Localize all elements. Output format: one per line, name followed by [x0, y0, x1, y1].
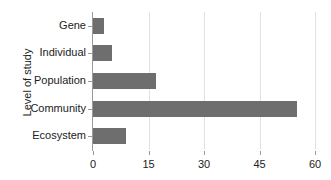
gridline — [315, 12, 316, 150]
bar — [93, 18, 104, 34]
x-axis-tick-label: 45 — [245, 158, 275, 170]
y-axis-tick-labels: GeneIndividualPopulationCommunityEcosyst… — [26, 12, 86, 150]
x-axis-tick-mark — [315, 151, 316, 155]
bar — [93, 101, 297, 117]
x-axis-tick-mark — [93, 151, 94, 155]
x-axis-tick-mark — [149, 151, 150, 155]
y-axis-tick-label: Gene — [26, 20, 86, 31]
bar — [93, 73, 156, 89]
y-axis-tick-label: Ecosystem — [26, 130, 86, 141]
x-axis-tick-label: 0 — [78, 158, 108, 170]
y-axis-tick-mark — [88, 136, 93, 137]
gridline — [260, 12, 261, 150]
y-axis-tick-label: Population — [26, 75, 86, 86]
bar — [93, 45, 112, 61]
y-axis-tick-mark — [88, 53, 93, 54]
y-axis-tick-mark — [88, 109, 93, 110]
plot-area — [93, 12, 315, 150]
x-axis-tick-label: 60 — [300, 158, 330, 170]
y-axis-tick-mark — [88, 26, 93, 27]
x-axis-tick-mark — [204, 151, 205, 155]
gridline — [204, 12, 205, 150]
x-axis-tick-label: 15 — [134, 158, 164, 170]
y-axis-tick-label: Individual — [26, 47, 86, 58]
x-axis-tick-label: 30 — [189, 158, 219, 170]
y-axis-tick-mark — [88, 81, 93, 82]
bar-chart: Level of study GeneIndividualPopulationC… — [0, 0, 331, 180]
x-axis-tick-mark — [260, 151, 261, 155]
bar — [93, 128, 126, 144]
y-axis-tick-label: Community — [26, 103, 86, 114]
